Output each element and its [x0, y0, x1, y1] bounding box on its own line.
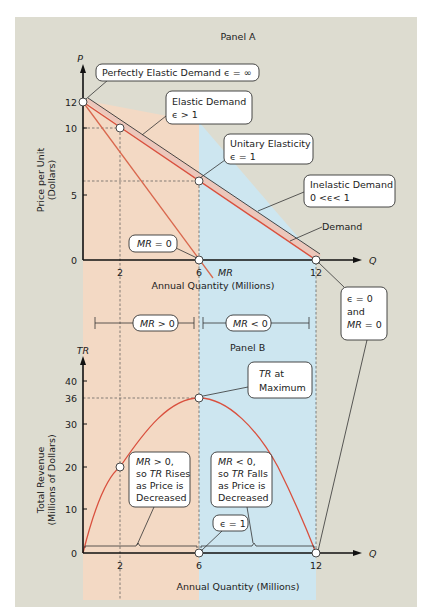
callout-zero-elasticity-line2: and [347, 306, 365, 317]
panel-a-y-symbol: P [77, 53, 83, 64]
svg-text:MR = 0: MR = 0 [137, 238, 172, 249]
svg-text:MR = 0: MR = 0 [347, 319, 382, 330]
panel-a-x-symbol: Q [369, 255, 377, 266]
callout-tr-max-line2: Maximum [259, 382, 306, 393]
panel-a-title: Panel A [220, 31, 256, 42]
b-x-tick-2: 2 [117, 560, 123, 571]
tr-tick-10: 10 [65, 504, 77, 515]
callout-rises-line4: Decreased [136, 492, 187, 503]
point-q0-p12 [79, 98, 87, 106]
callout-elastic-line1: Elastic Demand [172, 96, 246, 107]
tr-tick-40: 40 [65, 376, 77, 387]
elastic-region [83, 100, 199, 600]
callout-zero-elasticity-line1: ϵ = 0 [347, 293, 373, 304]
panel-b-y-label-2: (Millions of Dollars) [46, 434, 57, 525]
tr-tick-36: 36 [65, 393, 77, 404]
callout-elastic-line2: ϵ > 1 [172, 109, 198, 120]
tr-tick-0: 0 [71, 548, 77, 559]
x-tick-6: 6 [196, 267, 202, 278]
svg-text:TR at: TR at [259, 368, 284, 379]
panel-b-title: Panel B [230, 342, 265, 353]
elasticity-revenue-figure: Panel A Price per Unit (Dollars) P Q 12 … [0, 0, 429, 616]
x-tick-12: 12 [310, 267, 322, 278]
tr-tick-30: 30 [65, 419, 77, 430]
mr-curve-label: MR [218, 267, 233, 278]
svg-text:so TR Rises: so TR Rises [136, 468, 190, 479]
panel-a-y-label-2: (Dollars) [46, 160, 57, 201]
callout-falls-line3: as Price is [218, 480, 266, 491]
panel-a-y-label-1: Price per Unit [35, 148, 46, 213]
y-tick-10: 10 [65, 123, 77, 134]
panel-a-x-label: Annual Quantity (Millions) [151, 280, 274, 291]
callout-rises-line3: as Price is [136, 480, 184, 491]
callout-inelastic-line2: 0 <ϵ< 1 [310, 192, 350, 203]
tr-tick-20: 20 [65, 462, 77, 473]
panel-b-x-symbol: Q [369, 548, 377, 559]
panel-b-x-label: Annual Quantity (Millions) [176, 581, 299, 592]
callout-unitary-line1: Unitary Elasticity [230, 138, 311, 149]
svg-text:MR > 0: MR > 0 [140, 318, 175, 329]
demand-label: Demand [322, 221, 362, 232]
svg-text:MR < 0: MR < 0 [233, 318, 268, 329]
callout-unit-elastic-text: ϵ = 1 [220, 518, 246, 529]
tr-point-q12 [312, 549, 320, 557]
y-tick-12: 12 [65, 97, 77, 108]
tr-point-q2 [116, 463, 124, 471]
svg-text:MR < 0,: MR < 0, [218, 456, 256, 467]
callout-falls-line4: Decreased [218, 492, 269, 503]
y-tick-0: 0 [71, 255, 77, 266]
point-q2-p10 [116, 124, 124, 132]
x-tick-2: 2 [117, 267, 123, 278]
b-x-tick-6: 6 [196, 560, 202, 571]
callout-unitary-line2: ϵ = 1 [230, 151, 256, 162]
svg-text:so TR Falls: so TR Falls [218, 468, 268, 479]
b-x-tick-12: 12 [310, 560, 322, 571]
callout-inelastic-line1: Inelastic Demand [310, 179, 393, 190]
point-q6-p6 [195, 177, 203, 185]
y-tick-5: 5 [71, 190, 77, 201]
tr-point-max [195, 394, 203, 402]
svg-text:MR > 0,: MR > 0, [136, 456, 174, 467]
panel-b-y-label-1: Total Revenue [35, 447, 46, 515]
panel-b-y-symbol: TR [77, 345, 89, 356]
callout-perfectly-elastic-text: Perfectly Elastic Demand ϵ = ∞ [102, 67, 252, 78]
